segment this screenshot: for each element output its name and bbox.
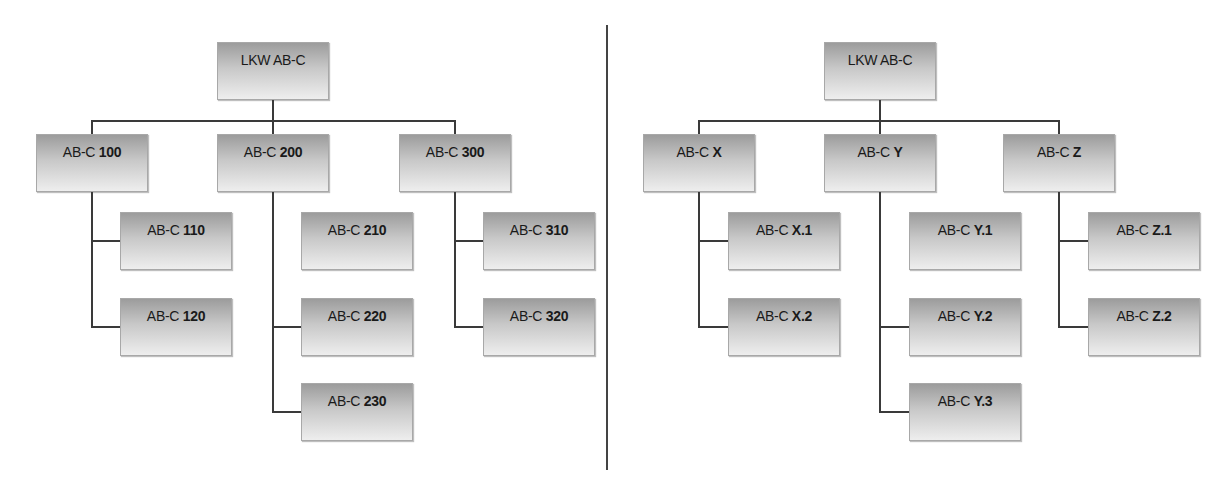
group-node[interactable]: AB-C 300 [399,134,511,192]
child-connector [879,411,909,413]
child-node[interactable]: AB-C 210 [301,212,413,270]
node-label-prefix: AB-C [510,222,546,238]
node-label-prefix: AB-C [426,144,462,160]
node-label-prefix: AB-C [938,222,974,238]
node-label-code: Y [893,144,902,160]
child-node[interactable]: AB-C Z.2 [1088,298,1200,356]
child-connector [698,326,728,328]
children-trunk [1058,192,1060,328]
child-node[interactable]: AB-C Z.1 [1088,212,1200,270]
child-connector [1058,326,1088,328]
node-label-prefix: AB-C [328,222,364,238]
node-label-code: 220 [364,308,386,324]
node-label-code: X [712,144,721,160]
child-node[interactable]: AB-C X.2 [728,298,840,356]
group-connector [1058,120,1060,134]
child-connector [454,326,483,328]
child-connector [1058,240,1088,242]
child-node[interactable]: AB-C 320 [483,298,595,356]
node-label-code: Y.2 [974,308,993,324]
group-connector [91,120,93,134]
child-node[interactable]: AB-C Y.3 [909,383,1021,441]
node-label-prefix: LKW AB-C [848,52,913,68]
node-label-code: Y.1 [974,222,993,238]
group-connector [698,120,700,134]
node-label-code: X.1 [792,222,812,238]
node-label-prefix: AB-C [510,308,546,324]
node-label-code: 200 [280,144,302,160]
node-label-code: 310 [546,222,568,238]
children-trunk [698,192,700,328]
node-label-prefix: AB-C [756,222,792,238]
node-label-prefix: AB-C [756,308,792,324]
children-trunk [91,192,93,328]
group-node[interactable]: AB-C 200 [217,134,329,192]
child-node[interactable]: AB-C 220 [301,298,413,356]
child-connector [91,326,120,328]
group-connector [454,120,456,134]
child-connector [91,240,120,242]
children-trunk [272,192,274,413]
group-connector [879,120,881,134]
node-label-code: 120 [183,308,205,324]
child-connector [454,240,483,242]
child-node[interactable]: AB-C 120 [120,298,232,356]
child-node[interactable]: AB-C X.1 [728,212,840,270]
node-label-prefix: AB-C [938,393,974,409]
node-label-code: 100 [99,144,121,160]
children-trunk [879,192,881,413]
node-label-prefix: AB-C [938,308,974,324]
node-label-prefix: AB-C [147,222,183,238]
node-label-prefix: AB-C [328,308,364,324]
node-label-code: Z.1 [1152,222,1171,238]
child-node[interactable]: AB-C Y.2 [909,298,1021,356]
node-label-code: 210 [364,222,386,238]
node-label-code: Y.3 [974,393,993,409]
children-trunk [454,192,456,328]
node-label-prefix: AB-C [328,393,364,409]
group-node[interactable]: AB-C Z [1003,134,1115,192]
node-label-code: Z.2 [1152,308,1171,324]
child-node[interactable]: AB-C 230 [301,383,413,441]
group-connector [272,120,274,134]
child-connector [272,411,301,413]
child-connector [272,326,301,328]
node-label-code: 110 [183,222,205,238]
node-label-prefix: AB-C [63,144,99,160]
node-label-prefix: AB-C [677,144,713,160]
child-node[interactable]: AB-C 310 [483,212,595,270]
node-label-code: 300 [462,144,484,160]
node-label-prefix: AB-C [858,144,894,160]
node-label-prefix: AB-C [1116,308,1152,324]
child-connector [879,326,909,328]
root-connector [272,100,274,120]
node-label-code: X.2 [792,308,812,324]
child-node[interactable]: AB-C Y.1 [909,212,1021,270]
root-node[interactable]: LKW AB-C [217,42,329,100]
child-node[interactable]: AB-C 110 [120,212,232,270]
child-connector [698,240,728,242]
node-label-prefix: AB-C [244,144,280,160]
node-label-prefix: AB-C [1037,144,1073,160]
org-chart-canvas: LKW AB-CAB-C 100AB-C 110AB-C 120AB-C 200… [0,0,1218,494]
group-node[interactable]: AB-C Y [824,134,936,192]
root-connector [879,100,881,120]
node-label-prefix: AB-C [147,308,183,324]
group-node[interactable]: AB-C X [643,134,755,192]
node-label-code: 230 [364,393,386,409]
node-label-code: 320 [546,308,568,324]
node-label-prefix: LKW AB-C [241,52,306,68]
root-node[interactable]: LKW AB-C [824,42,936,100]
panel-divider [606,25,608,470]
node-label-code: Z [1073,144,1081,160]
node-label-prefix: AB-C [1116,222,1152,238]
group-node[interactable]: AB-C 100 [36,134,148,192]
